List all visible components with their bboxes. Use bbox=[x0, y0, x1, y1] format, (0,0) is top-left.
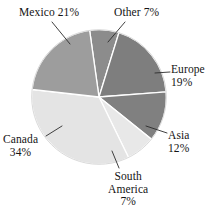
pie-label-south-america-value: 7% bbox=[108, 195, 148, 208]
pie-chart-figure: Mexico 21% Other 7% Europe 19% Asia 12% … bbox=[0, 0, 213, 217]
pie-label-europe-value: 19% bbox=[171, 76, 205, 89]
pie-chart-canvas bbox=[0, 0, 213, 217]
pie-label-asia-name: Asia bbox=[168, 129, 189, 142]
pie-label-mexico: Mexico 21% bbox=[19, 6, 79, 19]
pie-label-mexico-text: Mexico 21% bbox=[19, 6, 79, 19]
pie-label-south-america-name1: South bbox=[108, 170, 148, 183]
pie-label-other: Other 7% bbox=[114, 6, 159, 19]
pie-slice-mexico[interactable] bbox=[32, 30, 99, 97]
pie-label-other-text: Other 7% bbox=[114, 6, 159, 19]
pie-label-canada-name: Canada bbox=[3, 133, 38, 146]
pie-label-south-america: South America 7% bbox=[108, 170, 148, 208]
pie-label-canada-value: 34% bbox=[3, 146, 38, 159]
pie-label-europe-name: Europe bbox=[171, 63, 205, 76]
pie-label-canada: Canada 34% bbox=[3, 133, 38, 158]
pie-slices bbox=[32, 30, 167, 165]
pie-label-south-america-name2: America bbox=[108, 183, 148, 196]
pie-label-asia: Asia 12% bbox=[168, 129, 189, 154]
pie-label-asia-value: 12% bbox=[168, 142, 189, 155]
pie-label-europe: Europe 19% bbox=[171, 63, 205, 88]
